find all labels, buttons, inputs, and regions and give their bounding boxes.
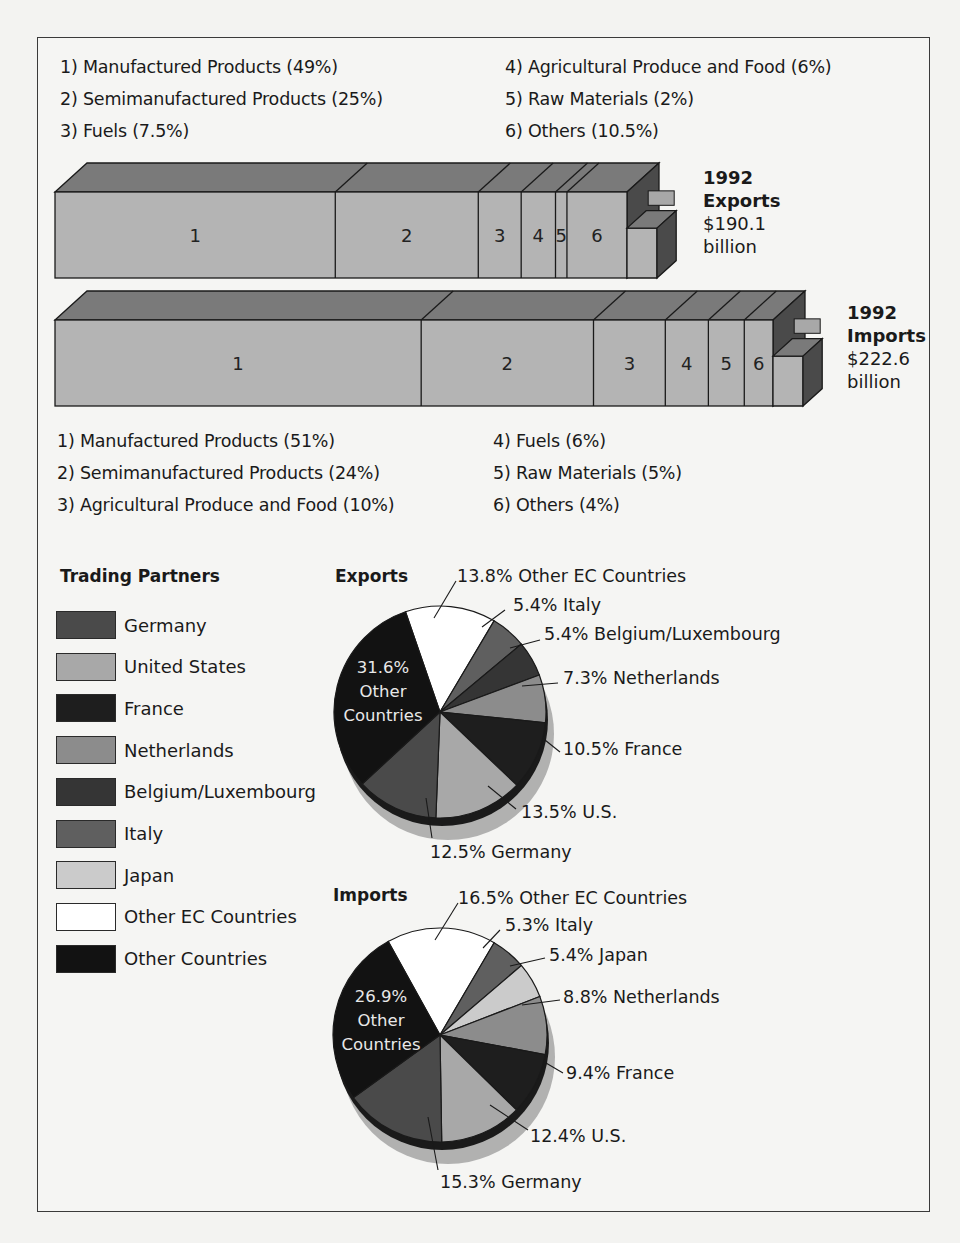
exports-inner-label: 31.6% Other Countries	[328, 656, 438, 728]
exports-callout-belgium: 5.4% Belgium/Luxembourg	[544, 624, 781, 644]
exports-callout-france: 10.5% France	[563, 739, 682, 759]
exports-callout-us: 13.5% U.S.	[521, 802, 617, 822]
imports-callout-japan: 5.4% Japan	[549, 945, 648, 965]
imports-callout-netherlands: 8.8% Netherlands	[563, 987, 720, 1007]
imports-callout-other-ec: 16.5% Other EC Countries	[458, 888, 687, 908]
pie-charts	[0, 0, 960, 1243]
imports-callout-france: 9.4% France	[566, 1063, 674, 1083]
imports-inner-line2: Countries	[326, 1033, 436, 1057]
imports-inner-label: 26.9% Other Countries	[326, 985, 436, 1057]
exports-callout-other-ec: 13.8% Other EC Countries	[457, 566, 686, 586]
exports-inner-pct: 31.6%	[328, 656, 438, 680]
exports-inner-line2: Countries	[328, 704, 438, 728]
exports-inner-line1: Other	[328, 680, 438, 704]
imports-callout-us: 12.4% U.S.	[530, 1126, 626, 1146]
imports-callout-italy: 5.3% Italy	[505, 915, 593, 935]
imports-inner-pct: 26.9%	[326, 985, 436, 1009]
imports-callout-germany: 15.3% Germany	[440, 1172, 582, 1192]
imports-inner-line1: Other	[326, 1009, 436, 1033]
exports-callout-netherlands: 7.3% Netherlands	[563, 668, 720, 688]
exports-callout-italy: 5.4% Italy	[513, 595, 601, 615]
exports-callout-germany: 12.5% Germany	[430, 842, 572, 862]
